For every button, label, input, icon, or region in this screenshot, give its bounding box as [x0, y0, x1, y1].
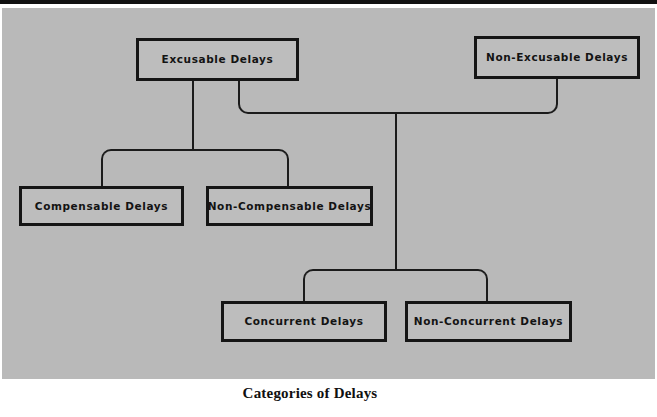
node-compensable-delays[interactable]: Compensable Delays [19, 186, 184, 226]
connector-level2-right-elbow [269, 149, 289, 188]
node-concurrent-delays-label: Concurrent Delays [244, 316, 363, 327]
connector-shared-bus [252, 112, 548, 114]
figure-page: Excusable Delays Non-Excusable Delays Co… [0, 0, 657, 417]
connector-level2-bar [117, 149, 277, 151]
node-non-concurrent-delays[interactable]: Non-Concurrent Delays [405, 301, 572, 342]
connector-non-excusable-to-bus-elbow [536, 96, 558, 114]
node-non-concurrent-delays-label: Non-Concurrent Delays [414, 316, 563, 327]
node-non-excusable-delays-label: Non-Excusable Delays [486, 52, 628, 63]
node-non-compensable-delays[interactable]: Non-Compensable Delays [206, 186, 373, 226]
connector-excusable-to-level2-stem [192, 79, 194, 150]
connector-excusable-to-bus-elbow [238, 79, 260, 114]
node-non-compensable-delays-label: Non-Compensable Delays [208, 201, 372, 212]
figure-caption: Categories of Delays [0, 385, 620, 402]
connector-level2-left-elbow [101, 149, 121, 188]
diagram-canvas: Excusable Delays Non-Excusable Delays Co… [2, 8, 655, 379]
connector-bus-to-level3-stem [395, 112, 397, 270]
page-top-rule [0, 0, 657, 4]
node-excusable-delays[interactable]: Excusable Delays [136, 38, 299, 81]
node-concurrent-delays[interactable]: Concurrent Delays [221, 301, 387, 342]
connector-level3-left-elbow [303, 269, 323, 303]
connector-level3-bar [319, 269, 474, 271]
node-non-excusable-delays[interactable]: Non-Excusable Delays [474, 36, 640, 79]
node-excusable-delays-label: Excusable Delays [162, 54, 274, 65]
connector-level3-right-elbow [468, 269, 488, 303]
node-compensable-delays-label: Compensable Delays [35, 201, 168, 212]
